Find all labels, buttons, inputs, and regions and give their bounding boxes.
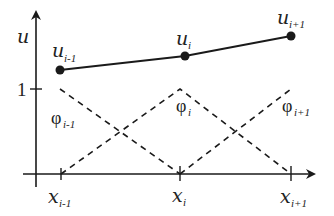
fem-diagram: 1 u x i-1 x i x i+1 φ i-1 φ i φ i+1 u i-… [0, 0, 334, 216]
node-u-i [181, 52, 190, 61]
node-label-i-plus-1: u i+1 [277, 6, 305, 30]
svg-text:i-1: i-1 [59, 197, 71, 209]
y-tick-label: 1 [17, 79, 27, 100]
basis-label-i: φ i [176, 96, 191, 118]
svg-text:u: u [176, 27, 188, 49]
svg-text:i-1: i-1 [64, 52, 76, 64]
node-u-i-minus-1 [56, 66, 65, 75]
node-label-i-minus-1: u i-1 [52, 39, 76, 64]
svg-text:u: u [277, 6, 289, 28]
svg-text:i: i [188, 106, 191, 118]
svg-text:x: x [48, 185, 59, 207]
svg-text:φ: φ [176, 96, 186, 116]
x-tick-label-i: x i [172, 184, 186, 208]
svg-text:x: x [280, 185, 291, 207]
node-label-i: u i [176, 27, 191, 51]
svg-text:φ: φ [51, 108, 61, 128]
x-tick-label-i-minus-1: x i-1 [48, 185, 71, 209]
basis-label-i-minus-1: φ i-1 [51, 108, 75, 130]
svg-text:i+1: i+1 [291, 197, 307, 209]
y-axis-label: u [17, 25, 29, 47]
basis-label-i-plus-1: φ i+1 [282, 96, 310, 118]
svg-text:u: u [52, 39, 64, 61]
svg-text:i: i [188, 39, 191, 51]
node-u-i-plus-1 [287, 32, 296, 41]
svg-text:φ: φ [282, 96, 292, 116]
x-tick-label-i-plus-1: x i+1 [280, 185, 307, 209]
svg-text:i-1: i-1 [63, 118, 75, 130]
svg-text:i+1: i+1 [289, 18, 305, 30]
svg-text:x: x [172, 184, 183, 206]
svg-text:i+1: i+1 [294, 106, 310, 118]
svg-text:i: i [183, 196, 186, 208]
